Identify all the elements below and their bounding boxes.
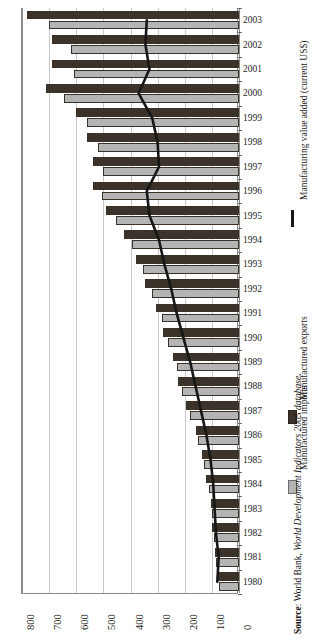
x-tick-label-600: 600 [79,614,90,630]
x-tick-label-100: 100 [215,614,226,630]
x-tick-label-400: 400 [134,614,145,630]
year-label-1985: 1985 [243,455,277,465]
plot-area [21,8,238,594]
year-label-2002: 2002 [243,40,277,50]
x-tick-label-0: 0 [242,625,253,630]
year-label-2001: 2001 [243,64,277,74]
year-label-1996: 1996 [243,186,277,196]
year-label-1999: 1999 [243,113,277,123]
chart-figure: 2003200220012000199919981997199619951994… [0,0,314,640]
year-label-1995: 1995 [243,211,277,221]
year-label-1987: 1987 [243,406,277,416]
mva-polyline [139,20,219,582]
x-tick-label-200: 200 [188,614,199,630]
year-label-1983: 1983 [243,504,277,514]
category-axis-labels: 2003200220012000199919981997199619951994… [243,8,277,594]
value-axis-labels: 8007006005004003002001000 [21,596,238,636]
source-text: Source: World Bank, World Development In… [293,373,304,634]
source-suffix: . [293,373,303,375]
year-label-1989: 1989 [243,357,277,367]
year-label-1993: 1993 [243,259,277,269]
y-tick [238,594,242,595]
year-label-1990: 1990 [243,333,277,343]
year-label-2000: 2000 [243,88,277,98]
year-label-1980: 1980 [243,577,277,587]
year-label-2003: 2003 [243,15,277,25]
mva-line-series [22,8,239,594]
year-label-1981: 1981 [243,552,277,562]
source-publisher: World Bank, [293,551,303,602]
source-separator: : [293,601,303,606]
year-label-1992: 1992 [243,284,277,294]
x-tick-label-700: 700 [52,614,63,630]
year-label-1984: 1984 [243,479,277,489]
legend-label-0: Manufacturing value added (current US$) [299,41,309,200]
year-label-1998: 1998 [243,137,277,147]
year-label-1988: 1988 [243,381,277,391]
source-note: Source: World Bank, World Development In… [283,470,313,638]
year-label-1991: 1991 [243,308,277,318]
x-tick-label-800: 800 [25,614,36,630]
year-label-1997: 1997 [243,162,277,172]
legend-line-marker [291,210,294,227]
x-tick-label-300: 300 [161,614,172,630]
year-label-1982: 1982 [243,528,277,538]
x-tick-label-500: 500 [106,614,117,630]
source-prefix: Source [293,606,303,634]
source-database: World Development Indicators 2005 databa… [293,376,303,551]
year-label-1994: 1994 [243,235,277,245]
year-label-1986: 1986 [243,430,277,440]
